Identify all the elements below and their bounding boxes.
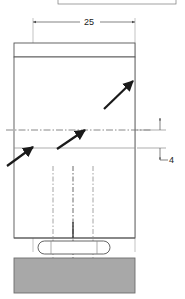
technical-drawing-canvas: 25 — [0, 0, 185, 299]
dimension-height-label: 4 — [169, 155, 174, 165]
engineering-drawing: 25 — [0, 0, 185, 299]
top-plate — [14, 43, 135, 57]
top-plate-outline — [14, 43, 135, 57]
cropped-caption-box — [58, 0, 176, 4]
obround-slot-outline — [38, 241, 110, 254]
dimension-width-label: 25 — [84, 17, 94, 27]
hatched-base-outline — [14, 258, 135, 293]
dimension-height-4: 4 — [137, 118, 174, 165]
hatched-base — [14, 258, 135, 293]
obround-slot — [38, 241, 110, 254]
